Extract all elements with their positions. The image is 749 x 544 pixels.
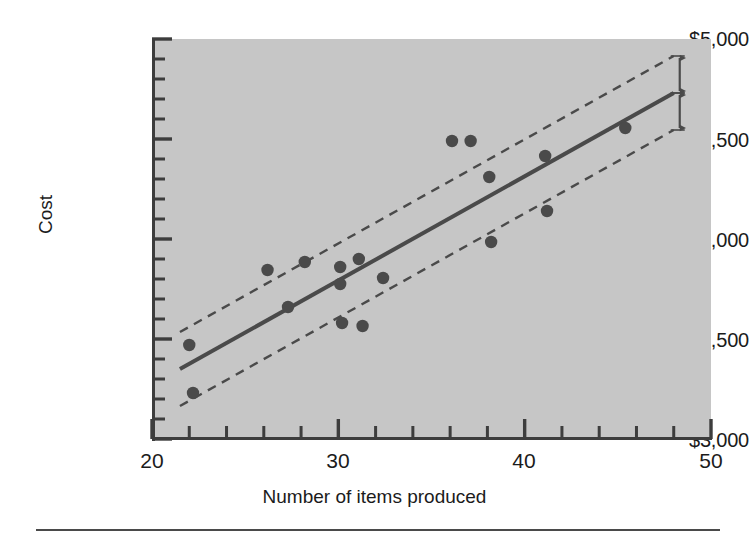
data-point-11	[446, 135, 458, 147]
data-point-15	[539, 150, 551, 162]
data-point-1	[187, 387, 199, 399]
data-point-4	[299, 256, 311, 268]
data-point-8	[353, 253, 365, 265]
data-point-17	[619, 122, 631, 134]
figure-bottom-rule	[36, 529, 720, 531]
data-point-0	[183, 339, 195, 351]
data-point-7	[336, 317, 348, 329]
data-point-16	[541, 205, 553, 217]
data-point-6	[334, 278, 346, 290]
data-point-2	[261, 264, 273, 276]
plot-area	[0, 0, 749, 544]
data-point-3	[282, 301, 294, 313]
plot-background	[152, 39, 711, 440]
data-point-5	[334, 261, 346, 273]
data-point-12	[464, 135, 476, 147]
figure-scatter-cost-vs-items: $5,000 $4,500 $4,000 $3,500 $3,000 20 30…	[0, 0, 749, 544]
data-point-9	[356, 320, 368, 332]
data-point-13	[483, 171, 495, 183]
data-point-10	[377, 272, 389, 284]
data-point-14	[485, 236, 497, 248]
